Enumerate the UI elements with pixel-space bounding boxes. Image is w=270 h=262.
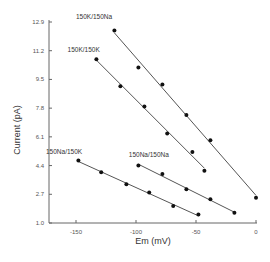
data-point xyxy=(118,84,122,88)
y-tick-label: 6.1 xyxy=(36,134,45,140)
series-150k-150na: 150K/150Na xyxy=(76,13,258,200)
data-point xyxy=(160,82,164,86)
series-label: 150K/150K xyxy=(68,46,101,53)
y-tick-label: 2.7 xyxy=(36,191,45,197)
series-layer: 150K/150Na150K/150K150Na/150K150Na/150Na xyxy=(46,13,258,217)
x-tick-label: -150 xyxy=(70,229,83,235)
series-label: 150K/150Na xyxy=(76,13,113,20)
data-point xyxy=(99,170,103,174)
series-150na-150k: 150Na/150K xyxy=(46,148,200,217)
data-point xyxy=(184,187,188,191)
data-point xyxy=(184,113,188,117)
axes: 1.02.74.46.17.89.511.212.9 -150-100-500 … xyxy=(12,19,258,246)
data-point xyxy=(76,159,80,163)
data-point xyxy=(254,196,258,200)
data-point xyxy=(208,138,212,142)
data-point xyxy=(165,131,169,135)
x-tick-label: 0 xyxy=(254,229,258,235)
series-label: 150Na/150K xyxy=(46,148,83,155)
y-tick-label: 7.8 xyxy=(36,105,45,111)
data-point xyxy=(171,204,175,208)
data-point xyxy=(94,57,98,61)
data-point xyxy=(124,182,128,186)
data-point xyxy=(232,211,236,215)
fit-line xyxy=(78,161,198,215)
data-point xyxy=(190,150,194,154)
y-axis-title: Current (pA) xyxy=(12,105,22,155)
x-axis-title: Em (mV) xyxy=(135,236,171,246)
x-tick-label: -50 xyxy=(192,229,201,235)
x-ticks: -150-100-500 xyxy=(70,220,258,235)
data-point xyxy=(136,164,140,168)
y-tick-label: 9.5 xyxy=(36,76,45,82)
data-point xyxy=(147,191,151,195)
data-point xyxy=(160,172,164,176)
chart: 1.02.74.46.17.89.511.212.9 -150-100-500 … xyxy=(0,0,270,262)
y-tick-label: 11.2 xyxy=(33,48,45,54)
y-tick-label: 12.9 xyxy=(32,19,44,25)
data-point xyxy=(196,213,200,217)
data-point xyxy=(136,66,140,70)
y-tick-label: 1.0 xyxy=(36,220,45,226)
x-tick-label: -100 xyxy=(130,229,143,235)
data-point xyxy=(202,169,206,173)
y-tick-label: 4.4 xyxy=(36,163,45,169)
data-point xyxy=(142,104,146,108)
data-point xyxy=(208,197,212,201)
series-label: 150Na/150Na xyxy=(129,151,169,158)
series-150na-150na: 150Na/150Na xyxy=(129,151,237,215)
data-point xyxy=(112,28,116,32)
